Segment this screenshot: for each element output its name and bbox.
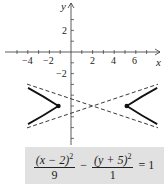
equation-box: (x − 2)2 9 − (y + 5)2 1 = 1 <box>25 147 164 184</box>
y-axis <box>68 3 74 145</box>
minus-sign: − <box>80 158 87 173</box>
denominator-x: 9 <box>52 168 58 182</box>
fraction-y: (y + 5)2 1 <box>92 150 133 182</box>
exponent: 2 <box>69 152 73 161</box>
numerator-x: (x − 2) <box>36 153 69 167</box>
y-tick-label: −2 <box>56 68 67 79</box>
hyperbola-branches <box>28 88 157 124</box>
x-axis-label: x <box>155 56 161 68</box>
x-tick-label: 4 <box>111 55 116 66</box>
vertices <box>56 104 129 109</box>
x-tick-label: −4 <box>22 55 33 66</box>
y-tick-label: 2 <box>62 25 67 36</box>
asymptotes <box>27 84 158 128</box>
denominator-y: 1 <box>110 168 116 182</box>
fraction-x: (x − 2)2 9 <box>34 150 75 182</box>
hyperbola-equation: (x − 2)2 9 − (y + 5)2 1 = 1 <box>25 147 164 184</box>
x-tick-label: 6 <box>132 55 137 66</box>
x-tick-label: −2 <box>43 55 54 66</box>
exponent: 2 <box>127 152 131 161</box>
y-ticks <box>71 20 74 139</box>
y-axis-label: y <box>60 0 66 12</box>
equals-one: = 1 <box>138 158 154 173</box>
x-tick-label: 2 <box>90 55 95 66</box>
numerator-y: (y + 5) <box>94 153 127 167</box>
